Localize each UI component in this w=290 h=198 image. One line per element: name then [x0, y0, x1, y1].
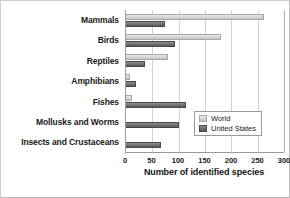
x-tick-label: 100: [172, 155, 185, 166]
bar-group: [126, 10, 284, 30]
bar-us: [126, 21, 165, 27]
x-axis-title: Number of identified species: [119, 167, 289, 177]
bar-group: [126, 71, 284, 91]
bar-us: [126, 122, 179, 128]
category-label-row: Mammals: [1, 10, 123, 30]
category-axis-labels: Mammals Birds Reptiles Amphibians Fishes…: [1, 10, 123, 153]
bar-us: [126, 61, 145, 67]
category-label: Amphibians: [71, 77, 119, 86]
category-label-row: Birds: [1, 30, 123, 50]
category-label-row: Fishes: [1, 92, 123, 112]
category-label: Birds: [98, 36, 119, 45]
x-tick-label: 50: [147, 155, 155, 166]
bar-world: [126, 135, 127, 141]
legend-swatch-icon: [199, 115, 207, 122]
bar-group: [126, 51, 284, 71]
chart-legend: World United States: [194, 111, 262, 136]
x-tick-label: 0: [123, 155, 127, 166]
bar-world: [126, 115, 127, 121]
bar-chart-figure: Mammals Birds Reptiles Amphibians Fishes…: [0, 0, 290, 198]
legend-swatch-icon: [199, 125, 207, 132]
gridline: [284, 10, 285, 152]
bar-group: [126, 30, 284, 50]
bar-us: [126, 102, 186, 108]
category-label-row: Reptiles: [1, 51, 123, 71]
bar-world: [126, 74, 130, 80]
bar-us: [126, 81, 136, 87]
category-label: Mammals: [81, 16, 119, 25]
category-label: Insects and Crustaceans: [21, 138, 119, 147]
x-tick-label: 150: [198, 155, 211, 166]
category-label: Reptiles: [87, 57, 119, 66]
category-label-row: Mollusks and Worms: [1, 112, 123, 132]
bar-world: [126, 14, 264, 20]
bar-world: [126, 54, 168, 60]
legend-entry-world: World: [199, 115, 256, 123]
legend-entry-united-states: United States: [199, 125, 256, 133]
category-label-row: Amphibians: [1, 71, 123, 91]
bar-us: [126, 41, 175, 47]
bar-group: [126, 91, 284, 111]
legend-label: United States: [211, 125, 256, 133]
value-axis-ticks: 050100150200250300: [125, 155, 284, 166]
category-label-row: Insects and Crustaceans: [1, 133, 123, 153]
x-tick-label: 200: [225, 155, 238, 166]
legend-label: World: [211, 115, 230, 123]
bar-us: [126, 142, 161, 148]
bar-world: [126, 34, 221, 40]
category-label: Mollusks and Worms: [36, 118, 119, 127]
category-label: Fishes: [93, 98, 119, 107]
x-tick-label: 250: [251, 155, 264, 166]
bar-world: [126, 95, 132, 101]
x-tick-label: 300: [278, 155, 290, 166]
